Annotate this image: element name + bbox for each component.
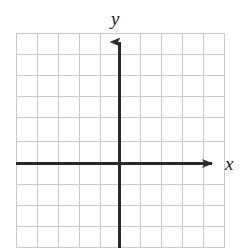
coordinate-plane-figure: y x	[0, 0, 240, 248]
x-axis-label: x	[225, 154, 233, 173]
y-axis-label: y	[111, 9, 119, 28]
coordinate-grid-svg	[0, 0, 240, 248]
